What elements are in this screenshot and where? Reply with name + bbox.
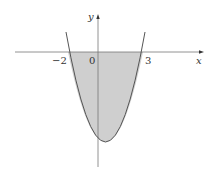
y-axis-arrow-icon bbox=[96, 14, 99, 19]
tick-label-3: 3 bbox=[145, 55, 151, 66]
tick-label-neg2: −2 bbox=[52, 55, 67, 66]
shaded-region bbox=[68, 52, 143, 142]
x-axis-label: x bbox=[196, 55, 202, 66]
tick-label-origin: 0 bbox=[89, 55, 95, 66]
parabola-graph: y x −2 0 3 bbox=[0, 0, 213, 174]
x-axis-arrow-icon bbox=[199, 50, 204, 53]
y-axis-label: y bbox=[87, 11, 94, 22]
